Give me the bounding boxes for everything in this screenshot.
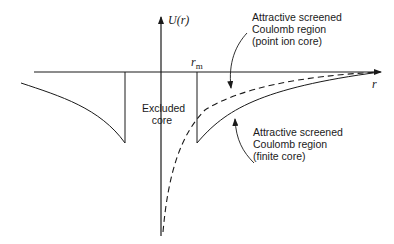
finite-core-line-1: Attractive screened <box>253 126 343 138</box>
excluded-core-label: Excluded core <box>142 102 182 126</box>
excluded-core-line-1: Excluded <box>142 102 182 114</box>
finite-core-pointer <box>235 119 254 163</box>
point-ion-line-1: Attractive screened <box>252 11 342 23</box>
rm-label: rm <box>191 56 203 72</box>
point-ion-annotation: Attractive screened Coulomb region (poin… <box>252 11 342 47</box>
left-finite-core-curve <box>21 83 125 143</box>
excluded-core-line-2: core <box>142 114 182 126</box>
rm-label-sub: m <box>196 61 203 71</box>
finite-core-line-3: (finite core) <box>253 150 343 162</box>
finite-core-annotation: Attractive screened Coulomb region (fini… <box>253 126 343 162</box>
u-axis-label: U(r) <box>168 14 189 26</box>
finite-core-line-2: Coulomb region <box>253 138 343 150</box>
point-ion-line-2: Coulomb region <box>252 23 342 35</box>
point-ion-line-3: (point ion core) <box>252 35 342 47</box>
r-axis-label: r <box>372 78 377 90</box>
point-ion-pointer <box>230 33 247 88</box>
